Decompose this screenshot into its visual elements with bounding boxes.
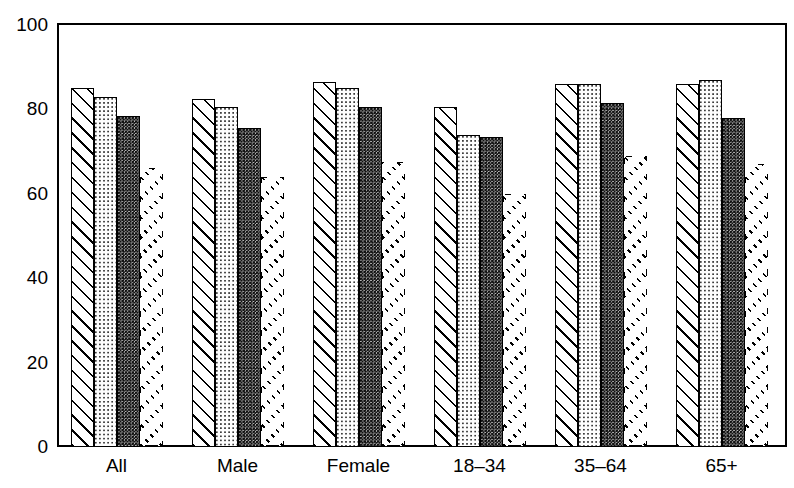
bar-group — [71, 25, 163, 447]
y-tick-label: 20 — [27, 353, 48, 372]
x-axis: AllMaleFemale18–3435–6465+ — [0, 455, 794, 485]
bar[interactable] — [215, 107, 238, 447]
bar-group — [434, 25, 526, 447]
bar[interactable] — [480, 137, 503, 447]
bar[interactable] — [676, 84, 699, 447]
bar[interactable] — [699, 80, 722, 447]
bar[interactable] — [457, 135, 480, 447]
bar[interactable] — [745, 164, 768, 447]
bar-group — [313, 25, 405, 447]
bar[interactable] — [382, 162, 405, 447]
x-tick-label: Male — [217, 455, 258, 477]
bar[interactable] — [71, 88, 94, 447]
bar-group — [555, 25, 647, 447]
bar-group-bars — [71, 25, 163, 447]
bar[interactable] — [359, 107, 382, 447]
bar[interactable] — [555, 84, 578, 447]
bar[interactable] — [601, 103, 624, 447]
bar-group-bars — [192, 25, 284, 447]
bar-group-bars — [313, 25, 405, 447]
bar[interactable] — [313, 82, 336, 447]
bar-group-bars — [434, 25, 526, 447]
bar[interactable] — [434, 107, 457, 447]
bar[interactable] — [94, 97, 117, 447]
bar[interactable] — [503, 194, 526, 447]
y-tick-label: 100 — [16, 15, 48, 34]
x-tick-label: 18–34 — [453, 455, 506, 477]
y-axis: 020406080100 — [0, 0, 52, 488]
bar-group — [192, 25, 284, 447]
bar[interactable] — [140, 168, 163, 447]
bar-group — [676, 25, 768, 447]
bar[interactable] — [722, 118, 745, 447]
y-tick-label: 40 — [27, 268, 48, 287]
bar[interactable] — [117, 116, 140, 447]
bar-chart: 020406080100 AllMaleFemale18–3435–6465+ — [0, 0, 794, 488]
x-tick-label: 35–64 — [574, 455, 627, 477]
bar[interactable] — [192, 99, 215, 447]
y-tick-label: 80 — [27, 99, 48, 118]
plot-area — [59, 25, 785, 447]
bar-group-bars — [676, 25, 768, 447]
y-tick-label: 0 — [37, 437, 48, 456]
y-tick-label: 60 — [27, 184, 48, 203]
bar-group-bars — [555, 25, 647, 447]
bar[interactable] — [578, 84, 601, 447]
bar[interactable] — [261, 177, 284, 447]
bar[interactable] — [624, 156, 647, 447]
bar[interactable] — [238, 128, 261, 447]
x-tick-label: 65+ — [705, 455, 737, 477]
x-tick-label: All — [106, 455, 127, 477]
bar[interactable] — [336, 88, 359, 447]
cropped-title-remnant — [18, 0, 418, 2]
x-tick-label: Female — [327, 455, 390, 477]
